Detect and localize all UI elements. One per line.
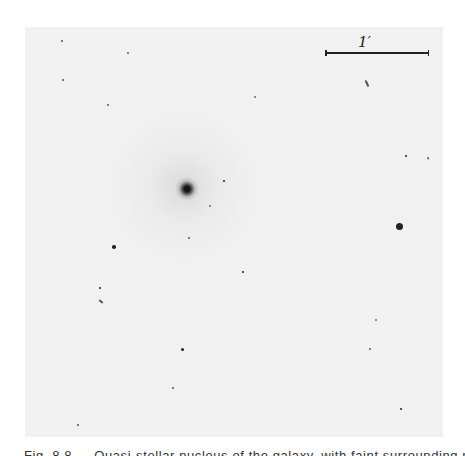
figure-caption-container: Fig. 8.8 — Quasi-stellar nucleus of the … [24,447,465,456]
star [62,79,64,81]
star [77,424,79,426]
star [172,387,174,389]
star [127,52,129,54]
star [181,348,184,351]
scale-bar-left-tick [325,50,327,56]
figure-caption: Fig. 8.8 — Quasi-stellar nucleus of the … [24,447,465,456]
star [254,96,256,98]
star [209,205,211,207]
scale-bar-right-tick [428,50,430,56]
scale-bar-line [325,52,429,54]
star [375,319,377,321]
galaxy-nucleus [175,177,199,201]
star [396,223,403,230]
star [188,237,190,239]
star [369,348,371,350]
scale-bar [325,50,429,56]
scale-bar-label: 1′ [358,33,371,51]
star [61,40,63,42]
photographic-plate [25,27,443,437]
dust-speck [428,157,429,160]
star [107,104,109,106]
star [112,245,116,249]
